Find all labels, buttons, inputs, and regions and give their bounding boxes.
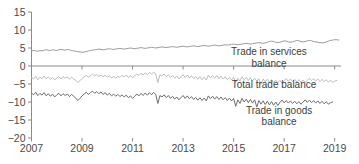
services-label: Trade in services bbox=[231, 46, 307, 57]
y-tick-label: 0 bbox=[20, 60, 26, 72]
y-tick-label: 15 bbox=[14, 6, 26, 18]
goods-label-line2: balance bbox=[262, 116, 297, 127]
x-tick-label: 2007 bbox=[20, 142, 44, 154]
goods-label: Trade in goods bbox=[246, 105, 312, 116]
x-tick-label: 2019 bbox=[323, 142, 347, 154]
y-tick-label: 5 bbox=[20, 42, 26, 54]
services-label-line2: balance bbox=[251, 58, 286, 69]
trade-balance-line-chart: 151050−5−10−15−20 2007200920112013201520… bbox=[0, 0, 359, 164]
chart-container: 151050−5−10−15−20 2007200920112013201520… bbox=[0, 0, 359, 164]
y-tick-label: 10 bbox=[14, 24, 26, 36]
x-tick-label: 2017 bbox=[272, 142, 296, 154]
x-tick-label: 2015 bbox=[222, 142, 246, 154]
total-label: Total trade balance bbox=[232, 79, 317, 90]
y-tick-label: −5 bbox=[14, 78, 26, 90]
y-tick-label: −15 bbox=[8, 114, 26, 126]
x-tick-label: 2009 bbox=[70, 142, 94, 154]
y-tick-label: −10 bbox=[8, 96, 26, 108]
x-tick-label: 2013 bbox=[171, 142, 195, 154]
x-tick-label: 2011 bbox=[121, 142, 144, 154]
